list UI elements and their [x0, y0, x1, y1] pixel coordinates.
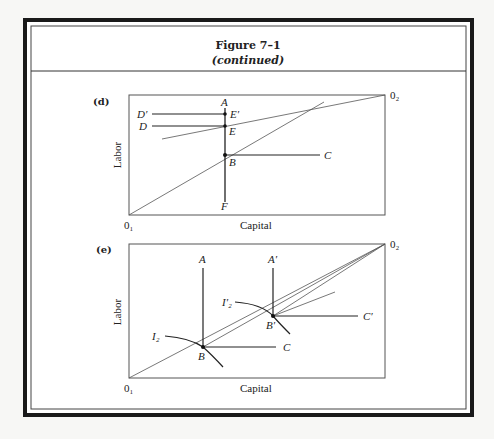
label-b: B — [198, 350, 205, 362]
y-axis-label: Labor — [111, 142, 123, 169]
label-origin-2: 0₂ — [390, 89, 400, 101]
label-d-prime: D′ — [136, 108, 148, 120]
figure-subtitle: (continued) — [212, 54, 284, 67]
y-axis-label: Labor — [111, 299, 123, 326]
outer-frame — [25, 20, 472, 415]
point-b-prime — [271, 314, 275, 318]
label-b-prime: B′ — [266, 319, 276, 331]
panel-e-label: (e) — [96, 244, 112, 255]
figure-title: Figure 7–1 — [215, 39, 280, 52]
label-e: E — [228, 125, 236, 137]
x-axis-label: Capital — [240, 219, 272, 231]
label-origin-1: 0₁ — [124, 219, 134, 231]
label-i2-prime: I′₂ — [221, 296, 232, 308]
figure-canvas: Figure 7–1 (continued) (d) A E′ E B C D′… — [0, 0, 494, 439]
label-c-prime: C′ — [363, 310, 373, 322]
label-origin-1: 0₁ — [124, 382, 134, 394]
label-i2: I₂ — [151, 330, 160, 342]
label-c: C — [324, 149, 332, 161]
panel-d-label: (d) — [93, 96, 109, 107]
point-b — [223, 153, 227, 157]
point-e-prime — [223, 112, 227, 116]
point-e — [223, 124, 227, 128]
point-b — [201, 345, 205, 349]
label-c: C — [283, 341, 291, 353]
label-a: A — [198, 253, 206, 265]
x-axis-label: Capital — [240, 382, 272, 394]
label-d: D — [138, 120, 147, 132]
label-a-prime: A′ — [267, 253, 278, 265]
label-b: B — [229, 156, 236, 168]
label-f: F — [220, 200, 228, 212]
label-e-prime: E′ — [229, 108, 240, 120]
label-a: A — [220, 96, 228, 108]
label-origin-2: 0₂ — [390, 238, 400, 250]
